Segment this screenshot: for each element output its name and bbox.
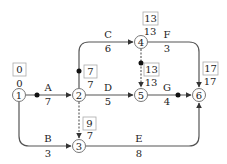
latest-box-node-3: 9 xyxy=(83,117,96,130)
activity-B-name: B xyxy=(44,133,51,144)
critical-dot xyxy=(176,93,181,98)
activity-C-duration: 6 xyxy=(105,43,111,54)
svg-text:5: 5 xyxy=(138,90,144,101)
critical-dot xyxy=(77,69,82,74)
node-4: 4 xyxy=(135,36,148,49)
network-diagram: 1 2 3 4 5 6 0 7 9 13 13 17 xyxy=(0,0,227,164)
node-2: 2 xyxy=(73,89,86,102)
node-3: 3 xyxy=(73,140,86,153)
activity-D-name: D xyxy=(104,82,112,93)
earliest-node-2: 7 xyxy=(87,79,93,90)
node-6: 6 xyxy=(193,89,206,102)
latest-box-node-4: 13 xyxy=(143,12,158,25)
node-5: 5 xyxy=(135,89,148,102)
activity-E-name: E xyxy=(135,133,142,144)
latest-box-node-2: 7 xyxy=(84,65,97,78)
activity-F-duration: 3 xyxy=(164,43,170,54)
svg-text:1: 1 xyxy=(16,90,22,101)
earliest-node-1: 0 xyxy=(16,78,22,89)
svg-text:7: 7 xyxy=(87,66,93,77)
activity-D-duration: 5 xyxy=(105,96,111,107)
earliest-node-4: 13 xyxy=(144,26,157,37)
svg-text:13: 13 xyxy=(145,64,158,75)
activity-F-name: F xyxy=(164,29,171,40)
activity-G-duration: 4 xyxy=(164,96,170,107)
earliest-node-3: 7 xyxy=(87,130,93,141)
svg-text:2: 2 xyxy=(76,90,82,101)
activity-G-name: G xyxy=(163,82,171,93)
svg-text:4: 4 xyxy=(138,37,144,48)
critical-dot xyxy=(139,61,144,66)
earliest-node-5: 13 xyxy=(145,77,158,88)
activity-A-name: A xyxy=(43,82,52,93)
svg-text:13: 13 xyxy=(144,13,157,24)
activity-E-duration: 8 xyxy=(136,148,142,159)
svg-text:6: 6 xyxy=(196,90,202,101)
latest-box-node-6: 17 xyxy=(203,62,218,75)
activity-A-duration: 7 xyxy=(45,96,51,107)
dummy-4-5 xyxy=(139,49,144,87)
node-1: 1 xyxy=(13,89,26,102)
latest-box-node-5: 13 xyxy=(144,63,159,76)
latest-box-node-1: 0 xyxy=(13,63,26,76)
critical-dot xyxy=(35,93,40,98)
activity-B-duration: 3 xyxy=(45,148,51,159)
svg-text:0: 0 xyxy=(16,64,22,75)
earliest-node-6: 17 xyxy=(204,76,217,87)
svg-text:3: 3 xyxy=(76,141,82,152)
svg-text:17: 17 xyxy=(204,63,217,74)
svg-text:9: 9 xyxy=(86,118,92,129)
activity-C-name: C xyxy=(104,29,112,40)
